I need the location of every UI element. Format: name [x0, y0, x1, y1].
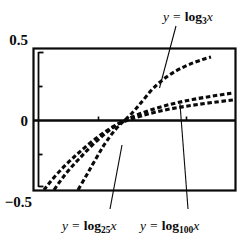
log-functions-figure: 0.5 0 −0.5 y=log3x y=log25x y=log100x: [0, 0, 244, 239]
log25-label-sub: 25: [101, 225, 111, 235]
log25-label-eq: =: [72, 218, 80, 233]
log3-label-arg: x: [206, 9, 213, 24]
log100-label-arg: x: [192, 218, 199, 233]
log100-label-y: y: [138, 218, 146, 233]
log100-label-eq: =: [150, 218, 158, 233]
y-axis-label-top: 0.5: [9, 32, 28, 48]
log25-label-y: y: [60, 218, 68, 233]
y-axis-label-bottom: −0.5: [5, 194, 32, 210]
log3-label-fn: log: [185, 9, 203, 24]
log100-label-sub: 100: [179, 225, 194, 235]
y-axis-label-middle: 0: [21, 113, 29, 129]
log3-label-y: y: [161, 9, 169, 24]
log3-label-eq: =: [173, 9, 181, 24]
log25-label-fn: log: [84, 218, 102, 233]
log25-label-arg: x: [109, 218, 116, 233]
log100-label-fn: log: [162, 218, 180, 233]
chart-canvas: 0.5 0 −0.5 y=log3x y=log25x y=log100x: [0, 0, 244, 239]
